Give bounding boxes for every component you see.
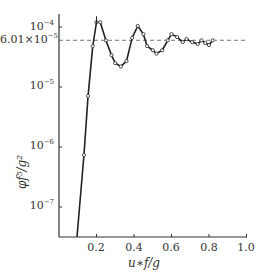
data-point-marker xyxy=(91,45,94,48)
data-point-marker xyxy=(181,41,184,44)
x-tick-label-1.0: 1.0 xyxy=(231,242,261,253)
data-point-marker xyxy=(207,43,210,46)
y-tick-label-1e-5: 10−5 xyxy=(2,80,54,91)
y-tick-label-1e-4: 10−4 xyxy=(2,21,54,32)
data-point-marker xyxy=(185,37,188,40)
data-point-marker xyxy=(166,39,169,42)
data-point-marker xyxy=(211,39,214,42)
data-point-marker xyxy=(99,21,102,24)
data-point-marker xyxy=(146,45,149,48)
data-point-marker xyxy=(82,154,85,157)
data-point-marker xyxy=(200,39,203,42)
data-point-marker xyxy=(131,36,134,39)
data-point-marker xyxy=(170,33,173,36)
x-axis-title: u∗f/g xyxy=(128,256,160,270)
spectrum-curve xyxy=(77,22,213,237)
data-point-marker xyxy=(119,65,122,68)
data-point-marker xyxy=(176,35,179,38)
y-axis-title: φf⁵/g² xyxy=(15,142,29,202)
data-point-marker xyxy=(136,24,139,27)
data-point-marker xyxy=(110,54,113,57)
x-tick-label-0.2: 0.2 xyxy=(81,242,111,253)
data-point-marker xyxy=(125,60,128,63)
data-point-marker xyxy=(151,49,154,52)
data-point-marker xyxy=(204,41,207,44)
y-tick-label-6.01e-5: 6.01×10−5 xyxy=(0,34,56,45)
data-point-marker xyxy=(196,42,199,45)
data-point-marker xyxy=(104,39,107,42)
data-point-marker xyxy=(191,41,194,44)
data-point-marker xyxy=(114,62,117,65)
data-point-marker xyxy=(86,94,89,97)
x-tick-label-0.4: 0.4 xyxy=(119,242,149,253)
x-tick-label-0.8: 0.8 xyxy=(194,242,224,253)
data-point-marker xyxy=(142,33,145,36)
axes xyxy=(59,14,247,237)
x-tick-label-0.6: 0.6 xyxy=(156,242,186,253)
data-series xyxy=(77,16,214,237)
data-point-marker xyxy=(161,49,164,52)
data-point-marker xyxy=(155,52,158,55)
